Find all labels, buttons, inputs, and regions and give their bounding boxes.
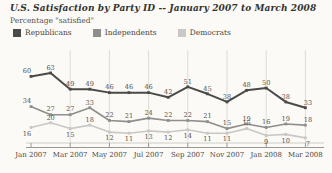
data-point-label: 60 <box>23 67 31 75</box>
data-point-marker <box>265 126 268 129</box>
data-point-label: 51 <box>184 78 192 86</box>
data-point-label: 7 <box>306 140 310 148</box>
data-point-marker <box>69 127 72 130</box>
data-point-marker <box>108 131 111 134</box>
data-point-marker <box>265 87 268 90</box>
data-point-label: 21 <box>203 112 211 120</box>
data-point-marker <box>128 91 131 94</box>
data-point-marker <box>108 91 111 94</box>
data-point-marker <box>49 72 52 75</box>
data-point-label: 20 <box>46 114 54 122</box>
data-point-label: 50 <box>262 79 270 87</box>
data-point-marker <box>69 88 72 91</box>
democrats-swatch-icon <box>178 29 186 37</box>
data-point-marker <box>167 119 170 122</box>
data-point-marker <box>206 132 209 135</box>
data-point-label: 15 <box>66 131 74 139</box>
data-point-label: 14 <box>184 132 192 140</box>
x-tick-label: Nov 2007 <box>210 151 244 159</box>
satisfaction-trend-chart: Jan 2007Mar 2007May 2007Jul 2007Sep 2007… <box>0 43 332 173</box>
data-point-label: 63 <box>46 64 54 72</box>
chart-card: U.S. Satisfaction by Party ID -- January… <box>0 0 332 173</box>
x-tick-label: May 2007 <box>92 151 127 159</box>
data-point-label: 48 <box>242 81 250 89</box>
data-point-label: 46 <box>125 83 133 91</box>
x-tick-label: Jan 2008 <box>249 151 282 159</box>
legend-label-democrats: Democrats <box>190 28 231 37</box>
data-point-label: 11 <box>223 135 231 143</box>
data-point-marker <box>186 128 189 131</box>
data-point-marker <box>284 133 287 136</box>
data-point-marker <box>167 96 170 99</box>
republicans-swatch-icon <box>13 29 21 37</box>
legend-item-independents: Independents <box>93 28 157 37</box>
data-point-label: 27 <box>46 105 54 113</box>
data-point-marker <box>88 88 91 91</box>
data-point-marker <box>69 113 72 116</box>
data-point-marker <box>206 120 209 123</box>
data-point-marker <box>30 126 33 129</box>
data-point-label: 11 <box>203 135 211 143</box>
data-point-label: 42 <box>164 88 172 96</box>
chart-title: U.S. Satisfaction by Party ID -- January… <box>10 3 316 13</box>
data-point-marker <box>226 132 229 135</box>
data-point-label: 22 <box>105 111 113 119</box>
data-point-marker <box>284 101 287 104</box>
data-point-label: 15 <box>242 119 250 127</box>
data-point-label: 22 <box>184 111 192 119</box>
data-point-marker <box>147 130 150 133</box>
data-point-label: 33 <box>304 99 312 107</box>
data-point-marker <box>167 131 170 134</box>
data-point-marker <box>304 136 307 139</box>
data-point-label: 16 <box>262 118 270 126</box>
data-point-label: 22 <box>164 111 172 119</box>
data-point-marker <box>88 106 91 109</box>
data-point-label: 18 <box>86 116 94 124</box>
data-point-label: 24 <box>144 109 152 117</box>
data-point-label: 45 <box>203 85 211 93</box>
data-point-marker <box>226 127 229 130</box>
data-point-marker <box>284 123 287 126</box>
data-point-marker <box>88 124 91 127</box>
data-point-marker <box>186 119 189 122</box>
data-point-label: 10 <box>282 137 290 145</box>
data-point-label: 38 <box>282 93 290 101</box>
data-point-marker <box>245 127 248 130</box>
data-point-marker <box>49 121 52 124</box>
x-tick-label: Sep 2007 <box>171 151 204 159</box>
x-tick-label: Jan 2007 <box>14 151 47 159</box>
data-point-label: 33 <box>86 99 94 107</box>
data-point-marker <box>304 106 307 109</box>
data-point-label: 9 <box>264 138 268 146</box>
legend-label-independents: Independents <box>105 28 157 37</box>
data-point-label: 11 <box>125 135 133 143</box>
data-point-marker <box>30 75 33 78</box>
data-point-marker <box>265 134 268 137</box>
data-point-marker <box>108 119 111 122</box>
data-point-label: 38 <box>223 93 231 101</box>
data-point-label: 49 <box>86 80 94 88</box>
data-point-label: 46 <box>105 83 113 91</box>
data-point-label: 19 <box>282 115 290 123</box>
legend-item-republicans: Republicans <box>13 28 72 37</box>
data-point-marker <box>186 85 189 88</box>
data-point-label: 12 <box>164 134 172 142</box>
data-point-label: 46 <box>144 83 152 91</box>
data-point-label: 49 <box>66 80 74 88</box>
chart-subtitle: Percentage "satisfied" <box>10 16 94 25</box>
data-point-marker <box>128 120 131 123</box>
data-point-marker <box>245 89 248 92</box>
data-point-label: 16 <box>23 130 31 138</box>
data-point-marker <box>147 91 150 94</box>
data-point-label: 13 <box>144 133 152 141</box>
data-point-marker <box>206 92 209 95</box>
data-point-label: 27 <box>66 105 74 113</box>
legend-item-democrats: Democrats <box>178 28 231 37</box>
x-tick-label: Mar 2007 <box>53 151 88 159</box>
legend-label-republicans: Republicans <box>25 28 72 37</box>
data-point-marker <box>128 132 131 135</box>
data-point-label: 21 <box>125 112 133 120</box>
independents-swatch-icon <box>93 29 101 37</box>
data-point-marker <box>304 124 307 127</box>
data-point-marker <box>147 117 150 120</box>
